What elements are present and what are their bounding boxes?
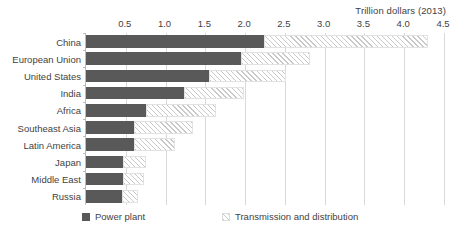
bar-row: Japan (86, 153, 443, 170)
legend-label: Power plant (95, 211, 145, 222)
category-label: Japan (55, 156, 81, 167)
category-label: China (56, 36, 81, 47)
y-tick-mark (83, 136, 86, 137)
bar-segment-power-plant (86, 190, 122, 203)
chart-container: Trillion dollars (2013) 0.51.01.52.02.53… (0, 0, 454, 242)
y-tick-mark (83, 50, 86, 51)
legend-item[interactable]: Transmission and distribution (222, 211, 358, 222)
bar-segment-transmission-distribution (123, 156, 146, 169)
bar-row: India (86, 85, 443, 102)
bar-row: China (86, 33, 443, 50)
stacked-bar (86, 35, 428, 48)
legend-item[interactable]: Power plant (82, 211, 145, 222)
x-axis-tick-labels: 0.51.01.52.02.53.03.54.04.5 (0, 18, 454, 31)
stacked-bar (86, 121, 193, 134)
bar-segment-power-plant (86, 104, 146, 117)
bar-segment-transmission-distribution (134, 121, 194, 134)
bar-segment-power-plant (86, 87, 184, 100)
bar-row: Southeast Asia (86, 119, 443, 136)
category-label: Latin America (23, 139, 81, 150)
stacked-bar (86, 173, 144, 186)
category-label: European Union (12, 53, 81, 64)
axis-unit-caption: Trillion dollars (2013) (355, 5, 446, 16)
x-tick-label: 2.0 (238, 18, 251, 29)
category-label: Russia (52, 191, 81, 202)
x-tick-label: 3.0 (317, 18, 330, 29)
category-label: India (60, 88, 81, 99)
bar-row: United States (86, 67, 443, 84)
bar-rows: ChinaEuropean UnionUnited StatesIndiaAfr… (86, 33, 443, 205)
x-tick-label: 4.0 (397, 18, 410, 29)
bar-segment-transmission-distribution (134, 138, 175, 151)
bar-segment-power-plant (86, 173, 123, 186)
bar-segment-transmission-distribution (123, 173, 144, 186)
stacked-bar (86, 156, 146, 169)
category-label: Southeast Asia (18, 122, 81, 133)
y-tick-mark (83, 85, 86, 86)
bar-segment-power-plant (86, 70, 209, 83)
x-tick-label: 1.0 (158, 18, 171, 29)
gridline (444, 33, 445, 205)
plot-area: ChinaEuropean UnionUnited StatesIndiaAfr… (85, 33, 443, 205)
bar-row: Middle East (86, 171, 443, 188)
category-label: Middle East (31, 174, 81, 185)
bar-row: Russia (86, 188, 443, 205)
stacked-bar (86, 52, 310, 65)
bar-segment-power-plant (86, 52, 241, 65)
stacked-bar (86, 104, 216, 117)
legend-label: Transmission and distribution (235, 211, 358, 222)
y-tick-mark (83, 102, 86, 103)
solid-dark-square-icon (82, 213, 90, 221)
bar-row: Latin America (86, 136, 443, 153)
x-tick-label: 4.5 (436, 18, 449, 29)
category-label: Africa (57, 105, 81, 116)
bar-segment-power-plant (86, 138, 134, 151)
stacked-bar (86, 138, 175, 151)
bar-segment-transmission-distribution (241, 52, 310, 65)
y-tick-mark (83, 153, 86, 154)
bar-segment-power-plant (86, 35, 264, 48)
bar-segment-power-plant (86, 156, 123, 169)
hatched-square-icon (222, 213, 230, 221)
stacked-bar (86, 190, 138, 203)
category-label: United States (24, 70, 81, 81)
bar-row: European Union (86, 50, 443, 67)
x-tick-label: 0.5 (118, 18, 131, 29)
x-tick-label: 2.5 (277, 18, 290, 29)
bar-segment-transmission-distribution (184, 87, 244, 100)
stacked-bar (86, 70, 286, 83)
bar-segment-transmission-distribution (122, 190, 138, 203)
y-tick-mark (83, 171, 86, 172)
bar-segment-transmission-distribution (146, 104, 215, 117)
bar-row: Africa (86, 102, 443, 119)
bar-segment-transmission-distribution (209, 70, 287, 83)
chart-legend: Power plantTransmission and distribution (0, 211, 454, 227)
x-tick-label: 3.5 (357, 18, 370, 29)
y-tick-mark (83, 33, 86, 34)
y-tick-mark (83, 67, 86, 68)
bar-segment-power-plant (86, 121, 134, 134)
stacked-bar (86, 87, 244, 100)
y-tick-mark (83, 188, 86, 189)
y-tick-mark (83, 119, 86, 120)
bar-segment-transmission-distribution (264, 35, 428, 48)
x-tick-label: 1.5 (198, 18, 211, 29)
